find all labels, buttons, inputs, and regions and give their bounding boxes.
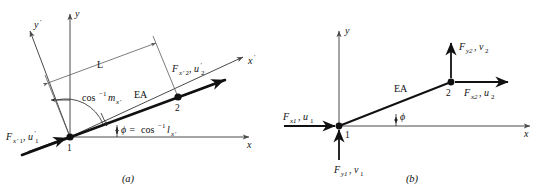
force-node1-x-sub: x1 (289, 117, 297, 125)
node-1-dot (336, 123, 343, 130)
x-prime-label-mark: ′ (254, 53, 256, 61)
force-node1-y-sub: y1 (340, 170, 348, 178)
panel-b-svg: y x EA ϕ 1 2 F x1 , u 1 F y1 , v 1 F x2 (272, 0, 543, 192)
force-node1-u: u (28, 131, 33, 142)
panel-b: y x EA ϕ 1 2 F x1 , u 1 F y1 , v 1 F x2 (272, 0, 543, 192)
panel-a: y x y ′ x ′ L EA 1 2 cos −1 m x ′ ϕ = co… (0, 0, 272, 192)
force-node1-y-comma: , (349, 164, 352, 175)
x-prime-axis-label: x ′ (247, 53, 256, 66)
y-axis-label: y (344, 25, 350, 36)
stiffness-label: EA (394, 83, 408, 94)
force-node2-x-u: u (484, 87, 489, 98)
node-2-dot (174, 93, 181, 100)
force-node1-u-mark: ′ (35, 129, 37, 137)
force-node2-comma: , (189, 63, 192, 74)
y-prime-label-mark: ′ (40, 18, 42, 26)
force-node2-x-comma: , (479, 87, 482, 98)
force-node1-u-sub: 1 (35, 137, 39, 145)
x-prime-label-text: x (247, 55, 253, 66)
force-node1-x-label: F x1 , u 1 (282, 111, 314, 125)
force-node1-F: F (5, 131, 13, 142)
node-1-label: 1 (67, 143, 72, 153)
panel-a-caption: (a) (122, 173, 135, 185)
force-node2-u: u (194, 63, 199, 74)
force-node1-x-comma: , (298, 111, 301, 122)
angle-m-exponent: −1 (99, 90, 107, 98)
force-node2-y-label: F y2 , v 2 (458, 41, 489, 55)
force-node1-y-label: F y1 , v 1 (333, 164, 364, 178)
force-node2-u-mark: ′ (201, 61, 203, 69)
force-node2-F: F (171, 63, 179, 74)
force-node2-y-comma: , (474, 41, 477, 52)
force-node2-local-label: F x ′ 2 , u ′ 2 (171, 61, 205, 77)
force-node1-y-v: v (354, 164, 359, 175)
panel-b-caption: (b) (406, 173, 419, 185)
y-prime-label-text: y (33, 19, 39, 30)
angle-m-sub-mark: ′ (120, 98, 122, 106)
force-node1-local-label: F x ′ 1 , u ′ 1 (5, 129, 39, 145)
y-axis-label: y (74, 8, 80, 19)
stiffness-label: EA (134, 89, 148, 100)
panel-a-svg: y x y ′ x ′ L EA 1 2 cos −1 m x ′ ϕ = co… (0, 0, 272, 192)
x-axis-label: x (523, 128, 529, 139)
force-node2-y-F: F (458, 41, 466, 52)
angle-m-cos: cos (82, 92, 95, 103)
phi-exponent: −1 (158, 122, 166, 130)
dim-extension-node1 (45, 75, 70, 137)
force-node2-x-F: F (463, 87, 471, 98)
phi-label: ϕ (400, 111, 405, 122)
node-1-label: 1 (345, 130, 350, 140)
force-node1-arrow (28, 138, 66, 152)
x-axis-label: x (246, 139, 252, 150)
figure-container: y x y ′ x ′ L EA 1 2 cos −1 m x ′ ϕ = co… (0, 0, 543, 192)
node-2-label: 2 (175, 103, 180, 113)
angle-label-phi: ϕ = cos −1 l x ′ (121, 122, 177, 138)
length-label: L (97, 59, 103, 70)
node-1-dot (66, 133, 73, 140)
force-node2-y-v: v (479, 41, 484, 52)
force-node2-y-sub: y2 (465, 47, 473, 55)
x-prime-axis-line (70, 57, 243, 137)
angle-label-m: cos −1 m x ′ (82, 90, 122, 106)
force-node1-x-u-sub: 1 (310, 117, 314, 125)
force-node2-y-v-sub: 2 (485, 47, 489, 55)
force-node2-arrow (185, 80, 224, 95)
phi-var: l (167, 124, 170, 135)
force-node1-y-v-sub: 1 (360, 170, 364, 178)
phi-symbol: ϕ = (121, 124, 135, 135)
y-prime-axis-label: y ′ (33, 18, 42, 30)
force-node1-x-F: F (282, 111, 290, 122)
phi-cos: cos (141, 124, 154, 135)
force-node1-comma: , (23, 131, 26, 142)
node-2-label: 2 (446, 88, 451, 98)
force-node1-x-u: u (303, 111, 308, 122)
force-node2-x-sub: x2 (470, 93, 478, 101)
node-2-dot (448, 79, 455, 86)
force-node2-u-sub: 2 (201, 69, 205, 77)
force-node1-y-F: F (333, 164, 341, 175)
angle-m-var: m (108, 92, 115, 103)
force-node2-x-label: F x2 , u 2 (463, 87, 495, 101)
force-node2-x-u-sub: 2 (491, 93, 495, 101)
